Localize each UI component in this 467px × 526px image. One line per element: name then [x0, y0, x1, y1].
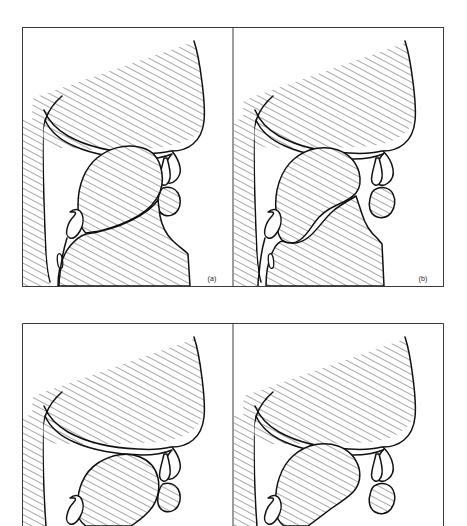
- panel-c-lower-lip: [158, 483, 181, 512]
- panel-b-label: (b): [418, 275, 427, 283]
- vocal-tract-figure: (a) (b): [0, 0, 467, 526]
- panel-a-lower-lip: [158, 187, 181, 216]
- panel-c-posterior-tissue: [23, 414, 45, 526]
- panel-b-lower-lip: [369, 188, 395, 218]
- figure-container: (a) (b): [0, 0, 467, 526]
- panel-d-posterior-tissue: [234, 414, 256, 526]
- panel-a-label: (a): [207, 275, 216, 283]
- panel-d-lower-lip: [369, 484, 395, 514]
